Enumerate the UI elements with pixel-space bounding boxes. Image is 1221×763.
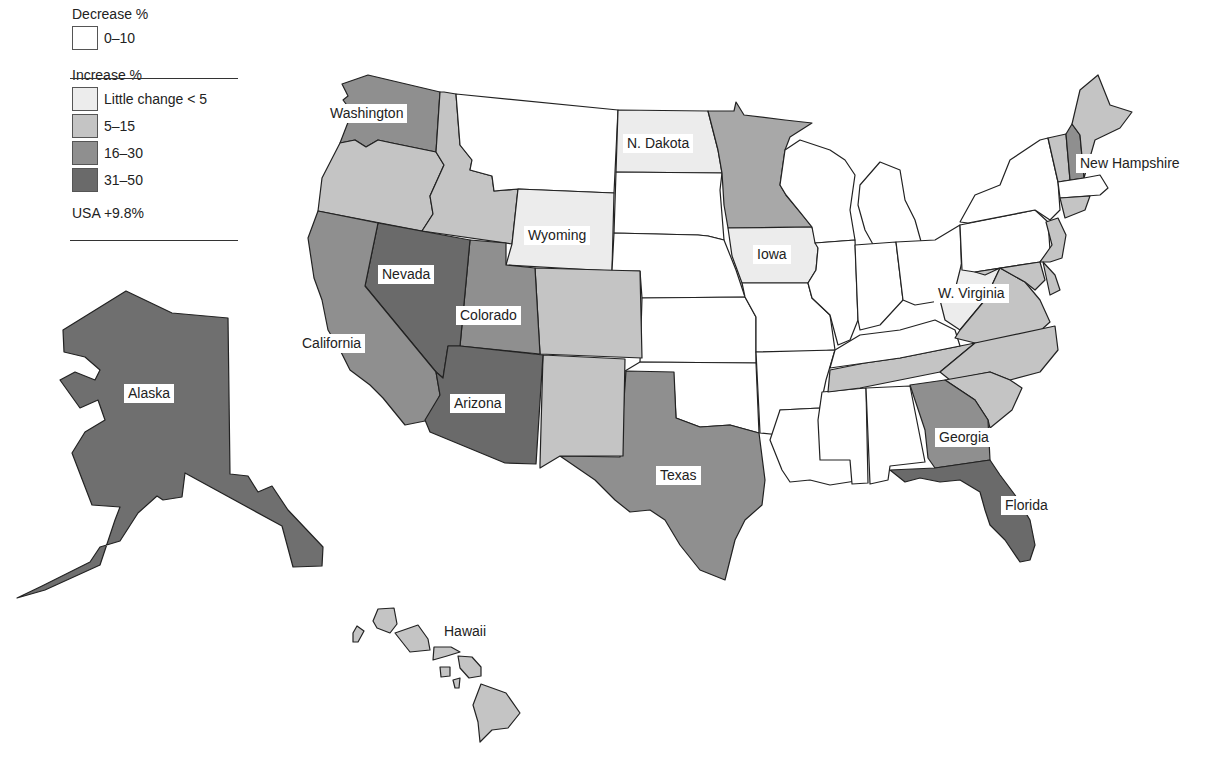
legend-swatch <box>72 87 98 111</box>
state-new-mexico <box>540 355 625 468</box>
label-colorado: Colorado <box>456 306 521 325</box>
label-florida: Florida <box>1001 496 1052 515</box>
legend-decrease-heading: Decrease % <box>72 4 240 24</box>
label-washington: Washington <box>326 104 407 123</box>
legend-divider <box>70 78 238 79</box>
legend-label: 0–10 <box>104 30 135 46</box>
legend-swatch <box>72 114 98 138</box>
state-indiana <box>855 242 903 330</box>
state-alaska <box>17 291 323 598</box>
label-arizona: Arizona <box>450 394 505 413</box>
legend-label: 31–50 <box>104 172 143 188</box>
legend-swatch <box>72 141 98 165</box>
label-wyoming: Wyoming <box>524 226 590 245</box>
island-oahu <box>395 625 430 652</box>
label-new-hampshire: New Hampshire <box>1076 154 1184 173</box>
legend-item-5-15: 5–15 <box>72 112 240 139</box>
label-west-virginia: W. Virginia <box>934 284 1009 303</box>
label-north-dakota: N. Dakota <box>623 134 693 153</box>
legend-item-little-change: Little change < 5 <box>72 85 240 112</box>
state-colorado-region <box>535 268 642 358</box>
label-california: California <box>298 334 365 353</box>
label-alaska: Alaska <box>124 384 174 403</box>
label-hawaii: Hawaii <box>440 622 490 641</box>
legend-national-total: USA +9.8% <box>72 203 240 223</box>
island-kauai <box>373 608 397 633</box>
legend-item-16-30: 16–30 <box>72 139 240 166</box>
label-nevada: Nevada <box>378 265 434 284</box>
legend-swatch <box>72 26 98 50</box>
legend-increase-heading: Increase % <box>72 65 240 85</box>
label-georgia: Georgia <box>935 428 993 447</box>
legend-divider <box>70 240 238 241</box>
state-kansas <box>640 297 756 363</box>
legend-item-31-50: 31–50 <box>72 166 240 193</box>
island-maui <box>458 656 481 678</box>
island-molokai <box>433 647 460 660</box>
state-michigan <box>858 162 922 248</box>
legend-label: Little change < 5 <box>104 91 207 107</box>
label-iowa: Iowa <box>753 245 791 264</box>
island-kahoolawe <box>453 678 460 688</box>
state-connecticut <box>1060 196 1090 218</box>
legend-label: 5–15 <box>104 118 135 134</box>
state-new-york <box>960 138 1060 223</box>
island-big-island <box>473 684 520 742</box>
legend-label: 16–30 <box>104 145 143 161</box>
legend-item-decrease-0-10: 0–10 <box>72 24 240 51</box>
island-lanai <box>440 667 450 677</box>
state-delaware <box>1043 262 1060 295</box>
label-texas: Texas <box>656 466 701 485</box>
island-niihau <box>353 626 364 642</box>
state-south-dakota <box>614 172 724 240</box>
legend-swatch <box>72 168 98 192</box>
map-legend: Decrease % 0–10 Increase % Little change… <box>72 4 240 223</box>
